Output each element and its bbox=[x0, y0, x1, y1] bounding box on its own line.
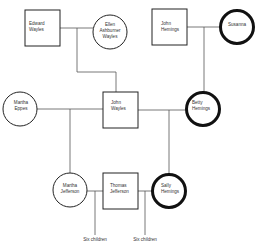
person-ellen-ashburner-wayles: Ellen Ashburner Wayles bbox=[93, 15, 127, 49]
person-label: Sally bbox=[161, 183, 172, 188]
person-label: Betty bbox=[192, 100, 203, 105]
person-label: Jefferson bbox=[110, 189, 129, 194]
person-label: Ashburner bbox=[99, 28, 121, 33]
person-label: Ellen bbox=[105, 22, 116, 27]
person-label: Martha bbox=[14, 100, 29, 105]
person-label: Edward bbox=[29, 21, 45, 26]
person-betty-hemings: Betty Hemings bbox=[187, 93, 220, 126]
person-thomas-jefferson: Thomas Jefferson bbox=[103, 173, 138, 209]
person-label: Hemings bbox=[161, 27, 180, 32]
person-label: Eppes bbox=[14, 106, 28, 111]
person-edward-wayles: Edward Wayles bbox=[25, 10, 60, 46]
person-susanna: Susanna bbox=[221, 11, 254, 44]
person-label: Wayles bbox=[29, 27, 45, 32]
person-label: Hemings bbox=[192, 106, 211, 111]
person-martha-jefferson: Martha Jefferson bbox=[53, 173, 87, 207]
family-tree-diagram: Edward Wayles Ellen Ashburner Wayles Joh… bbox=[0, 0, 259, 249]
person-label: Thomas bbox=[110, 183, 127, 188]
person-sally-hemings: Sally Hemings bbox=[153, 175, 186, 208]
person-label: John bbox=[111, 100, 121, 105]
person-label: Hemings bbox=[161, 189, 180, 194]
person-label: Wayles bbox=[111, 106, 127, 111]
person-label: John bbox=[161, 21, 171, 26]
children-note-martha-thomas: Six children bbox=[83, 237, 107, 242]
person-label: Wayles bbox=[103, 34, 119, 39]
children-note-thomas-sally: Six children bbox=[133, 237, 157, 242]
person-martha-eppes: Martha Eppes bbox=[3, 92, 37, 126]
person-label: Jefferson bbox=[61, 189, 80, 194]
person-john-hemings: John Hemings bbox=[152, 9, 187, 45]
female-circle-thick bbox=[221, 11, 254, 44]
person-john-wayles: John Wayles bbox=[103, 92, 138, 128]
person-label: Susanna bbox=[228, 22, 247, 27]
person-label: Martha bbox=[63, 183, 78, 188]
